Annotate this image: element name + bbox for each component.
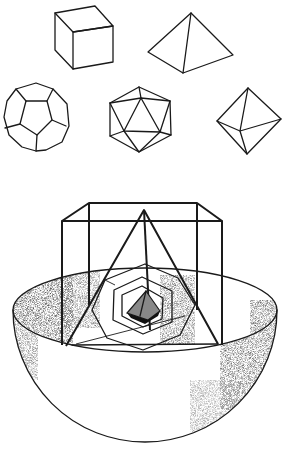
- icosahedron-solid: [110, 87, 171, 152]
- cube-solid: [55, 6, 113, 69]
- dodecahedron-solid: [4, 83, 69, 151]
- inner-octahedron: [127, 291, 160, 324]
- octahedron-solid: [217, 88, 281, 154]
- nested-model: [13, 203, 278, 442]
- tetrahedron-solid: [148, 13, 233, 73]
- diagram-canvas: [0, 0, 289, 449]
